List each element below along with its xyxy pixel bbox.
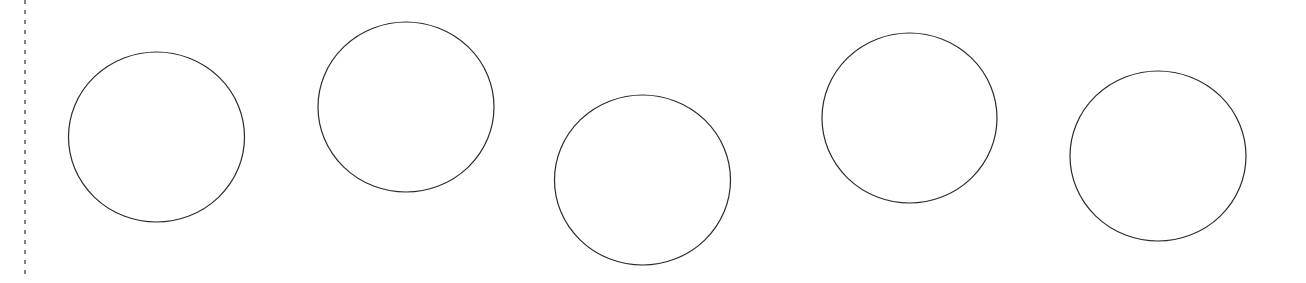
circles-group	[69, 22, 1247, 265]
diagram-svg	[0, 0, 1306, 283]
circle-5	[1070, 71, 1246, 241]
circle-2	[318, 22, 494, 192]
circle-4	[822, 33, 997, 203]
circle-1	[69, 52, 245, 222]
circle-3	[555, 95, 731, 265]
diagram-canvas	[0, 0, 1306, 283]
